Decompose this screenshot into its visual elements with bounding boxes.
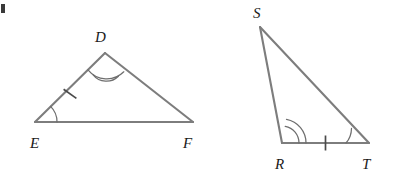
edge-ST xyxy=(260,27,369,143)
figure-canvas: D E F S R T xyxy=(0,0,393,177)
angle-arc-E xyxy=(51,106,57,122)
triangle-rst: S R T xyxy=(253,5,372,172)
vertex-label-F: F xyxy=(182,135,193,151)
angle-arc-R-inner xyxy=(285,126,299,143)
vertex-label-E: E xyxy=(29,135,39,151)
angle-arc-T xyxy=(346,128,352,143)
angle-mark-R xyxy=(285,119,306,143)
edge-ED xyxy=(35,53,105,122)
angle-mark-E xyxy=(51,106,57,122)
vertex-label-S: S xyxy=(253,5,261,21)
tick-mark-ED xyxy=(64,89,77,98)
angle-mark-D xyxy=(88,70,124,81)
edge-SR xyxy=(260,27,282,143)
geometry-figure: D E F S R T xyxy=(0,0,393,177)
angle-arc-R-outer xyxy=(287,119,307,143)
vertex-label-D: D xyxy=(94,29,106,45)
vertex-label-T: T xyxy=(362,156,372,172)
cropped-mark-top-left-icon xyxy=(1,4,5,13)
tick-mark-ED-stroke xyxy=(64,89,77,98)
triangle-def: D E F xyxy=(29,29,193,151)
vertex-label-R: R xyxy=(274,156,284,172)
angle-mark-T xyxy=(346,128,352,143)
edge-DF xyxy=(105,53,193,122)
